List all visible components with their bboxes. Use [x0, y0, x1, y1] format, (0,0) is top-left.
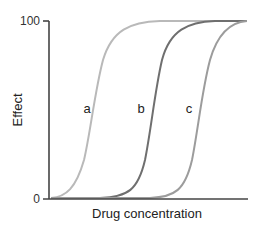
- x-axis-title: Drug concentration: [92, 206, 202, 221]
- y-tick-label-0: 0: [33, 192, 40, 206]
- y-tick-label-100: 100: [20, 14, 40, 28]
- y-axis-title: Effect: [10, 93, 25, 126]
- curve-label-b: b: [137, 101, 144, 116]
- dose-response-chart: 100 0 Effect Drug concentration a b c: [0, 0, 262, 229]
- curve-a: [51, 21, 247, 198]
- curve-label-c: c: [186, 101, 193, 116]
- curve-label-a: a: [83, 101, 91, 116]
